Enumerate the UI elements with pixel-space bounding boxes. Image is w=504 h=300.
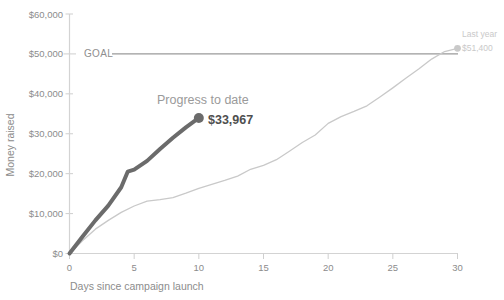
lastyear-annotation-value: $51,400 bbox=[462, 43, 493, 53]
x-tick-label: 30 bbox=[452, 262, 463, 273]
x-axis-ticks bbox=[70, 254, 458, 260]
y-tick-label: $50,000 bbox=[29, 48, 63, 59]
y-axis-tick-labels: $0$10,000$20,000$30,000$40,000$50,000$60… bbox=[29, 9, 63, 260]
x-tick-label: 10 bbox=[194, 262, 205, 273]
y-tick-label: $0 bbox=[52, 248, 63, 259]
lastyear-annotation-title: Last year bbox=[462, 29, 497, 39]
x-tick-label: 25 bbox=[388, 262, 399, 273]
x-tick-label: 0 bbox=[67, 262, 72, 273]
x-axis-title: Days since campaign launch bbox=[70, 280, 204, 292]
lastyear-endpoint-marker bbox=[454, 45, 461, 52]
y-tick-label: $40,000 bbox=[29, 88, 63, 99]
lastyear-series-line bbox=[70, 48, 458, 253]
x-tick-label: 15 bbox=[258, 262, 269, 273]
y-tick-label: $60,000 bbox=[29, 9, 63, 20]
progress-annotation-value: $33,967 bbox=[208, 113, 253, 127]
y-axis-title: Money raised bbox=[4, 113, 16, 176]
y-tick-label: $10,000 bbox=[29, 208, 63, 219]
x-axis-tick-labels: 051015202530 bbox=[67, 262, 463, 273]
y-tick-label: $20,000 bbox=[29, 168, 63, 179]
fundraising-line-chart: Money raised $0$10,000$20,000$30,000$40,… bbox=[0, 0, 504, 300]
y-tick-label: $30,000 bbox=[29, 128, 63, 139]
progress-series-line bbox=[70, 118, 199, 254]
progress-endpoint-marker bbox=[194, 113, 204, 123]
progress-annotation-title: Progress to date bbox=[157, 93, 249, 107]
goal-label: GOAL bbox=[84, 48, 113, 59]
x-tick-label: 5 bbox=[132, 262, 137, 273]
chart-container: Money raised $0$10,000$20,000$30,000$40,… bbox=[0, 0, 504, 300]
x-tick-label: 20 bbox=[323, 262, 334, 273]
